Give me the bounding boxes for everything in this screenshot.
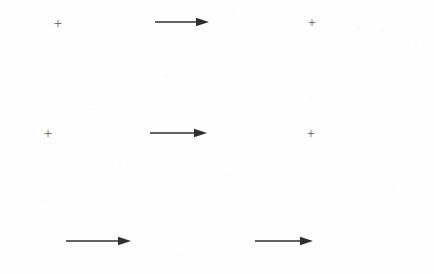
paper-speckle: [381, 30, 383, 32]
paper-noise-layer: [0, 0, 434, 274]
arrow-head: [300, 237, 313, 245]
paper-speckle: [215, 61, 217, 63]
paper-speckle: [332, 227, 334, 229]
arrow-top-center: [155, 17, 209, 27]
arrow-head: [194, 129, 207, 137]
paper-speckle: [392, 188, 394, 190]
paper-speckle: [119, 164, 121, 166]
paper-speckle: [90, 108, 92, 110]
arrow-bottom-right: [255, 236, 313, 246]
plus-middle-right: +: [307, 127, 315, 141]
paper-speckle: [357, 27, 359, 30]
paper-speckle: [415, 42, 417, 44]
paper-speckle: [44, 201, 46, 203]
paper-speckle: [310, 96, 312, 98]
paper-speckle: [92, 55, 94, 57]
arrow-bottom-left: [66, 236, 131, 246]
arrow-middle-center: [150, 128, 207, 138]
paper-speckle: [228, 173, 230, 175]
arrow-head: [196, 18, 209, 26]
diagram-canvas: ++++: [0, 0, 434, 274]
paper-speckle: [233, 12, 235, 14]
paper-speckle: [249, 55, 251, 58]
paper-speckle: [143, 47, 145, 49]
paper-speckle: [178, 253, 180, 255]
paper-speckle: [166, 75, 168, 77]
plus-middle-left: +: [44, 126, 52, 141]
arrow-head: [118, 237, 131, 245]
plus-top-left: +: [54, 16, 62, 31]
plus-top-right: +: [308, 16, 316, 30]
paper-speckle: [289, 262, 291, 264]
